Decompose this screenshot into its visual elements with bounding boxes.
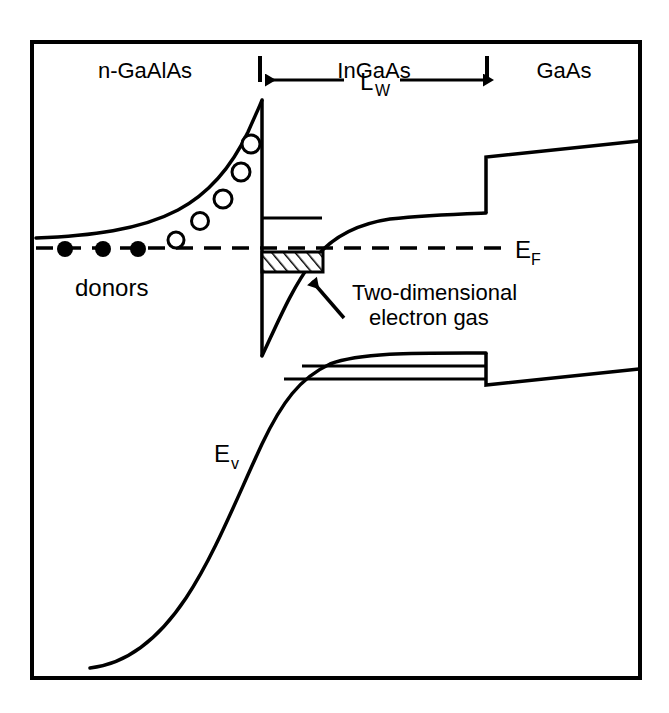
donors-label: donors: [75, 274, 148, 301]
donor-dot-open: [232, 163, 250, 181]
well-width-label-subscript: W: [375, 82, 391, 99]
layer-label-ingaas: InGaAs: [337, 58, 410, 83]
band-diagram-figure: n-GaAlAs InGaAs GaAs L W E F: [0, 0, 669, 713]
donor-dot-open: [192, 213, 209, 230]
valence-band-label-subscript: v: [231, 455, 239, 472]
figure-frame: [32, 42, 640, 678]
two-deg-pointer-arrow: [312, 281, 344, 318]
valence-band-curve: [90, 353, 486, 668]
donor-dot-open: [214, 190, 232, 208]
valence-band-gaas: [486, 353, 639, 385]
layer-label-gaas: GaAs: [536, 58, 591, 83]
donor-dot-filled: [95, 241, 111, 257]
layer-label-n-gaalas: n-GaAlAs: [98, 58, 192, 83]
two-deg-annotation-line2: electron gas: [369, 305, 489, 330]
well-width-label: L: [360, 68, 373, 95]
donor-dot-open: [242, 135, 260, 153]
valence-band-label: E: [214, 440, 230, 467]
fermi-level-label: E: [515, 236, 531, 263]
conduction-band-gaas: [486, 141, 639, 213]
two-deg-annotation-line1: Two-dimensional: [352, 280, 517, 305]
two-deg-hatched-band: [262, 252, 323, 272]
donor-dot-filled: [130, 241, 146, 257]
donor-dot-open: [168, 232, 184, 248]
band-diagram-svg: n-GaAlAs InGaAs GaAs L W E F: [0, 0, 669, 713]
fermi-level-label-subscript: F: [531, 251, 541, 268]
donor-dot-filled: [57, 241, 73, 257]
conduction-band-barrier: [36, 100, 262, 238]
